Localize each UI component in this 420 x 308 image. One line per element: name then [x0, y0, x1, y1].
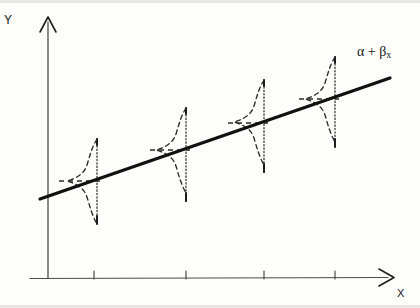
x-axis-line [30, 278, 388, 279]
regression-line-equation-label: α + βx [357, 44, 391, 60]
y-axis-label: Y [4, 13, 13, 27]
regression-line [40, 78, 390, 199]
conditional-axis-lines [97, 57, 335, 224]
regression-diagram: Y X α + βx [0, 0, 420, 308]
conditional-normal-curves [67, 57, 335, 224]
equation-main: α + β [357, 44, 386, 59]
x-axis-label: X [397, 287, 405, 299]
equation-subscript: x [386, 49, 391, 60]
axes-group [30, 17, 394, 286]
distribution-axis-tails [97, 57, 335, 224]
